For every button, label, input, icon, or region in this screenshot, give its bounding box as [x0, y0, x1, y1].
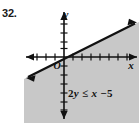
coordinate-graph-panel: y x O 2y ≤ x −5 [24, 0, 139, 123]
inequality-relation-symbol: ≤ [82, 87, 88, 99]
origin-label: O [53, 60, 60, 71]
problem-number: 32. [2, 7, 17, 19]
inequality-y-variable: y [74, 87, 79, 99]
inequality-constant: 5 [107, 87, 113, 99]
inequality-annotation: 2y ≤ x −5 [68, 87, 113, 99]
coordinate-plane-svg: y x O [24, 0, 139, 123]
worksheet-problem-graphic: 32. [0, 0, 139, 123]
inequality-x-variable: x [91, 87, 97, 99]
y-axis-label: y [62, 8, 69, 20]
inequality-minus-sign: − [100, 87, 107, 99]
x-axis-label: x [127, 59, 134, 71]
